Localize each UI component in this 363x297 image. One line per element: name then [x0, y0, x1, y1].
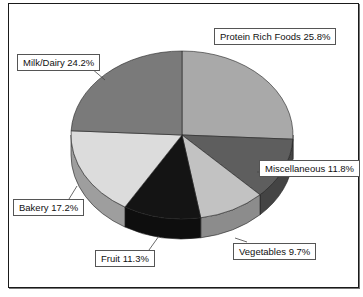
label-protein-rich-foods: Protein Rich Foods 25.8%	[214, 28, 336, 45]
leader-line-vegetables	[235, 238, 247, 242]
leader-line-fruit	[149, 236, 159, 250]
label-vegetables: Vegetables 9.7%	[233, 243, 316, 260]
label-bakery: Bakery 17.2%	[13, 199, 84, 216]
pie-slices	[71, 51, 293, 219]
chart-frame: Protein Rich Foods 25.8% Miscellaneous 1…	[8, 3, 359, 288]
slice-protein-rich-foods	[182, 51, 293, 139]
label-milk-dairy: Milk/Dairy 24.2%	[17, 54, 100, 71]
label-fruit: Fruit 11.3%	[95, 250, 155, 267]
label-miscellaneous: Miscellaneous 11.8%	[259, 160, 360, 177]
leader-line-bakery	[69, 186, 77, 199]
